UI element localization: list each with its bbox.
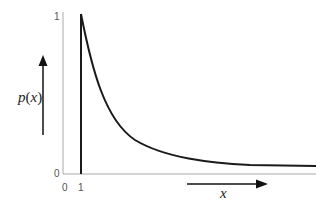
y-tick-label-0: 0 (54, 168, 60, 179)
decay-curve (81, 14, 316, 166)
x-tick-label-0: 0 (62, 182, 68, 193)
chart-canvas: 1 0 0 1 p(x) x (0, 0, 334, 211)
y-axis-label: p(x) (17, 89, 42, 106)
y-tick-label-1: 1 (54, 11, 60, 22)
x-axis-label: x (219, 185, 227, 201)
right-arrow-icon (187, 180, 268, 189)
x-tick-label-1: 1 (78, 182, 84, 193)
